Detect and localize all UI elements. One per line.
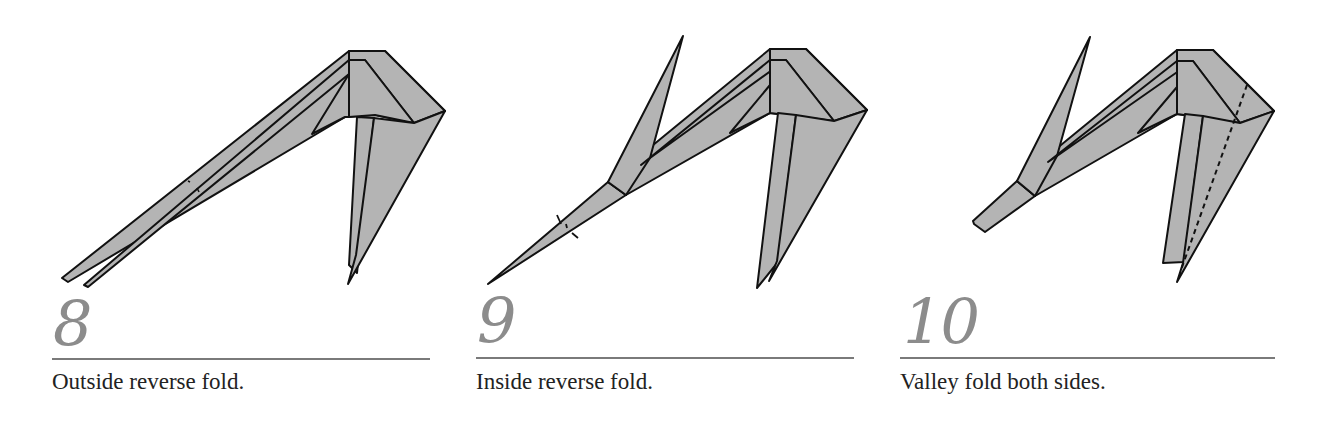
divider-rule (476, 357, 854, 359)
step-instruction: Inside reverse fold. (476, 369, 653, 395)
step-number: 10 (903, 291, 978, 353)
origami-diagram-step-10 (0, 0, 1326, 300)
divider-rule (900, 357, 1275, 359)
step-10: 10 Valley fold both sides. (0, 0, 420, 427)
step-instruction: Valley fold both sides. (900, 369, 1106, 395)
